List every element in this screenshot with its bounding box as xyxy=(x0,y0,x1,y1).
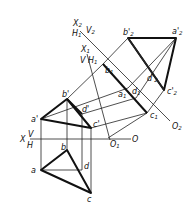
label-v2: V2 xyxy=(86,26,95,35)
label-x2: X2 xyxy=(72,19,82,28)
label-a2: a'2 xyxy=(172,27,183,36)
label-a1: a1 xyxy=(118,90,126,99)
label-b1: b1 xyxy=(105,66,114,75)
label-b2: b'2 xyxy=(123,28,134,37)
projector-b2 xyxy=(103,38,128,64)
projector-o1 xyxy=(108,113,147,138)
label-c-prime: c' xyxy=(93,120,100,129)
label-v: V xyxy=(28,130,34,139)
label-o: O xyxy=(132,135,138,144)
label-d2: d'2 xyxy=(147,74,158,83)
label-c2: c'2 xyxy=(167,87,178,96)
label-o1: O1 xyxy=(110,140,120,149)
label-d: d xyxy=(84,162,90,171)
label-b-prime: b' xyxy=(62,90,69,99)
label-h1: H1 xyxy=(88,56,98,65)
triangle-h xyxy=(41,150,91,193)
projector-c2 xyxy=(147,90,164,113)
line-ad-prime xyxy=(41,88,128,119)
label-b: b xyxy=(61,143,66,152)
label-x: X xyxy=(19,135,26,144)
label-c: c xyxy=(87,195,92,203)
projector-d1 xyxy=(82,98,136,114)
label-a: a xyxy=(31,166,36,175)
label-h: H xyxy=(27,141,33,150)
label-v1: V xyxy=(80,56,86,65)
label-h1b: H1 xyxy=(72,29,82,38)
label-a-prime: a' xyxy=(31,115,38,124)
x2-axis xyxy=(80,31,170,121)
label-d-prime: d' xyxy=(82,105,89,114)
line-bd-prime xyxy=(67,99,82,114)
label-x1: X1 xyxy=(80,45,90,54)
label-o2: O2 xyxy=(172,122,182,131)
label-d1: d1 xyxy=(132,87,141,96)
label-c1: c1 xyxy=(150,111,158,120)
projection-diagram: X V H O O1 X1 V H1 X2 H1 V2 O2 a' b' c' … xyxy=(0,0,192,203)
